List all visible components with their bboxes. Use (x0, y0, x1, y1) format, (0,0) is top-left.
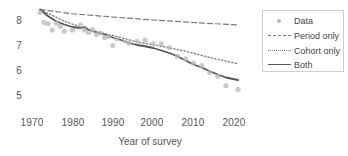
data-point (110, 43, 115, 48)
legend-label-data: Data (294, 16, 313, 26)
data-point (90, 27, 95, 32)
chart-legend: Data Period only Cohort only Both (262, 10, 344, 72)
legend-label-both: Both (294, 60, 313, 70)
data-point (114, 36, 119, 41)
x-axis-label: Year of survey (55, 136, 245, 147)
y-tick-8: 8 (6, 15, 22, 26)
data-point (207, 70, 212, 75)
data-point (223, 83, 228, 88)
data-point (50, 27, 55, 32)
legend-marker-icon (266, 14, 292, 28)
data-point (151, 41, 156, 46)
data-point (70, 27, 75, 32)
x-tick-1980: 1980 (53, 117, 93, 128)
data-point (159, 41, 164, 46)
y-tick-6: 6 (6, 65, 22, 76)
data-point (98, 30, 103, 35)
series-data-points (37, 10, 240, 92)
legend-label-period-only: Period only (294, 31, 339, 41)
data-point (175, 54, 180, 59)
legend-label-cohort-only: Cohort only (294, 46, 340, 56)
series-cohort-only (40, 10, 238, 64)
data-point (167, 45, 172, 50)
data-point (199, 63, 204, 68)
data-point (54, 20, 59, 25)
legend-item-cohort-only: Cohort only (263, 43, 345, 58)
x-tick-2020: 2020 (214, 117, 254, 128)
data-point (134, 39, 139, 44)
data-point (126, 40, 131, 45)
legend-dashed-line-icon (266, 29, 292, 43)
legend-item-data: Data (263, 13, 345, 28)
x-tick-1970: 1970 (12, 117, 52, 128)
data-point (143, 37, 148, 42)
x-tick-2010: 2010 (173, 117, 213, 128)
data-point (62, 29, 67, 34)
data-point (37, 10, 42, 15)
legend-dotted-line-icon (266, 44, 292, 58)
x-tick-2000: 2000 (132, 117, 172, 128)
data-point (106, 34, 111, 39)
legend-solid-line-icon (266, 58, 292, 72)
legend-item-both: Both (263, 57, 345, 72)
data-point (191, 60, 196, 65)
y-tick-7: 7 (6, 40, 22, 51)
data-point (235, 87, 240, 92)
data-point (183, 56, 188, 61)
data-point (78, 22, 83, 27)
data-point (46, 21, 51, 26)
line-both (40, 10, 238, 81)
data-point (58, 24, 63, 29)
legend-item-period-only: Period only (263, 28, 345, 43)
data-point (215, 74, 220, 79)
line-cohort-only (40, 10, 238, 64)
series-both (40, 10, 238, 81)
x-tick-1990: 1990 (93, 117, 133, 128)
y-tick-5: 5 (6, 90, 22, 101)
chart-figure: 8 7 6 5 1970 1980 1990 2000 2010 2020 Ye… (0, 0, 348, 156)
